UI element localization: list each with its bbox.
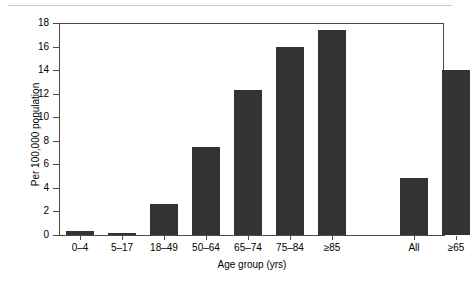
bar (318, 30, 346, 235)
bar (276, 47, 304, 235)
y-axis-tick (53, 70, 59, 71)
top-divider-rule (8, 5, 452, 6)
y-axis-tick (53, 211, 59, 212)
y-axis-tick-label: 8 (18, 136, 49, 146)
y-axis-tick (53, 117, 59, 118)
x-axis-tick-label: ≥65 (426, 243, 474, 253)
x-axis-tick (206, 236, 207, 240)
x-axis-tick (80, 236, 81, 240)
y-axis-tick-label: 2 (18, 206, 49, 216)
x-axis-tick-label: ≥85 (302, 243, 362, 253)
bar (66, 231, 94, 235)
x-axis-tick (164, 236, 165, 240)
x-axis-tick (456, 236, 457, 240)
bar (150, 204, 178, 235)
x-axis-tick (248, 236, 249, 240)
y-axis-tick-label: 0 (18, 230, 49, 240)
y-axis-tick (53, 141, 59, 142)
x-axis-tick (414, 236, 415, 240)
y-axis-tick (53, 94, 59, 95)
bar (192, 147, 220, 235)
y-axis-tick (53, 235, 59, 236)
y-axis-tick (53, 188, 59, 189)
y-axis-tick-label: 14 (18, 65, 49, 75)
y-axis-tick (53, 47, 59, 48)
bar (234, 90, 262, 235)
x-axis-tick (332, 236, 333, 240)
y-axis-tick-label: 4 (18, 183, 49, 193)
y-axis-tick (53, 164, 59, 165)
y-axis-tick-label: 18 (18, 18, 49, 28)
y-axis-tick-label: 12 (18, 89, 49, 99)
y-axis-tick-label: 6 (18, 159, 49, 169)
bar (400, 178, 428, 235)
x-axis-title: Age group (yrs) (59, 259, 445, 270)
x-axis-tick (122, 236, 123, 240)
bar (442, 70, 470, 235)
bar (108, 233, 136, 235)
y-axis-tick-label: 16 (18, 42, 49, 52)
x-axis-spine (59, 235, 445, 236)
x-axis-tick (290, 236, 291, 240)
y-axis-tick-label: 10 (18, 112, 49, 122)
y-axis-tick (53, 23, 59, 24)
